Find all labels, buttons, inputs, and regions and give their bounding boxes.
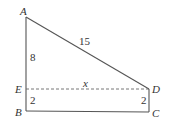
point-label-b: B — [15, 106, 22, 118]
length-label-eb: 2 — [30, 94, 36, 106]
point-label-a: A — [19, 5, 27, 17]
point-label-d: D — [151, 83, 160, 95]
segment-b-c — [26, 111, 149, 112]
point-label-e: E — [14, 83, 22, 95]
length-label-ae: 8 — [30, 51, 36, 63]
length-label-ad: 15 — [79, 35, 91, 47]
length-label-dc: 2 — [141, 94, 147, 106]
point-label-c: C — [152, 107, 160, 119]
length-label-ed: x — [82, 77, 88, 89]
trapezoid-diagram: A E B D C 8 15 x 2 2 — [0, 0, 171, 130]
